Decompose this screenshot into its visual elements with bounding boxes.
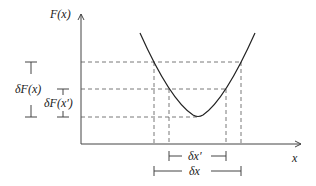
delta-F-x-label: δF(x) [15, 82, 41, 96]
x-axis-label: x [291, 151, 298, 165]
delta-x-label: δx [189, 164, 201, 178]
y-axis-label: F(x) [49, 7, 71, 21]
delta-xp-label: δx′ [188, 149, 202, 163]
axes [78, 14, 301, 147]
curve-F [140, 33, 255, 117]
diagram: F(x) x δF(x) δF(x′) δx′ δx [0, 0, 316, 186]
delta-F-xp-label: δF(x′) [44, 96, 73, 110]
